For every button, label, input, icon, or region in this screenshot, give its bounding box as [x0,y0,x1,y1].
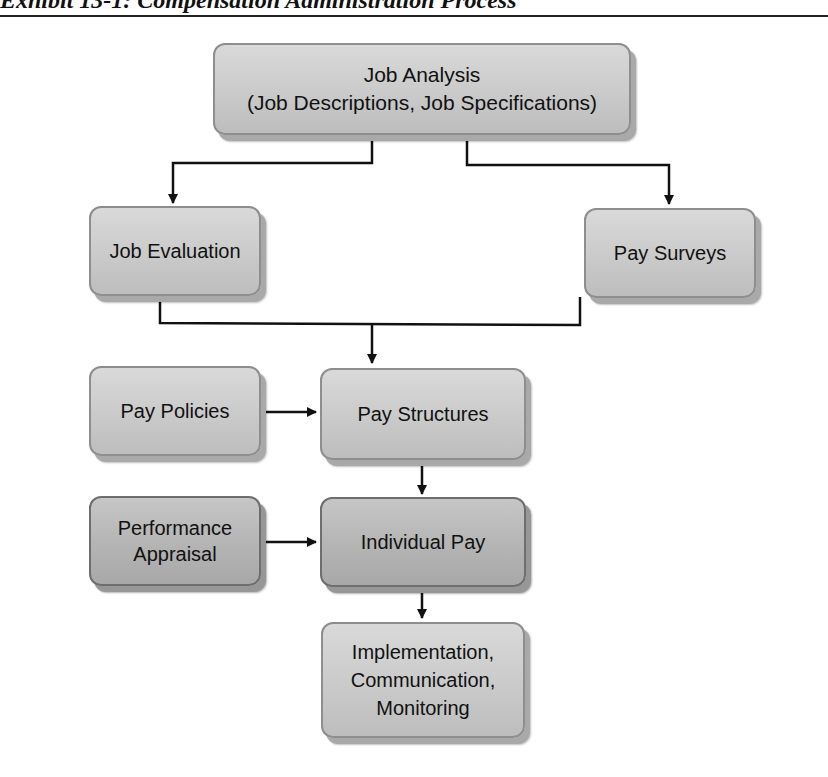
node-pay-surveys: Pay Surveys [584,208,756,298]
node-performance-appraisal: Performance Appraisal [89,496,261,586]
node-pay-policies: Pay Policies [89,366,261,456]
node-individual-pay: Individual Pay [320,497,526,587]
title-divider [0,15,828,17]
edge-jobevaluation-merge [160,295,580,325]
node-job-analysis: Job Analysis (Job Descriptions, Job Spec… [213,43,631,135]
figure-title: Exhibit 13-1: Compensation Administratio… [0,0,828,12]
edge-jobanalysis-paysurveys [467,138,669,204]
edge-jobanalysis-jobevaluation [173,138,372,203]
node-pay-structures: Pay Structures [320,368,526,460]
node-job-evaluation: Job Evaluation [89,206,261,296]
node-implementation: Implementation, Communication, Monitorin… [321,622,525,738]
